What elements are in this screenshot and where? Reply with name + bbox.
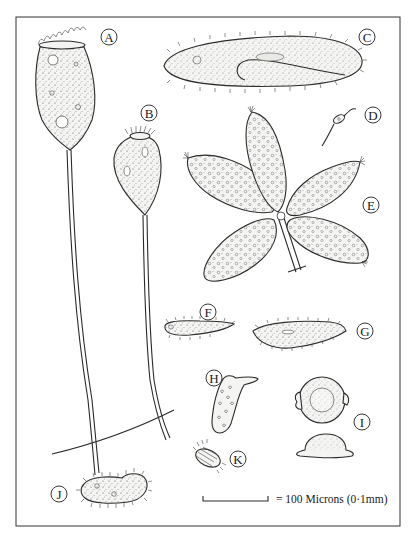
svg-text:K: K xyxy=(233,452,243,467)
svg-text:B: B xyxy=(145,106,154,121)
scale-bar: = 100 Microns (0·1mm) xyxy=(203,493,388,506)
specimen-a xyxy=(36,27,99,475)
svg-text:J: J xyxy=(56,487,61,502)
label-f: F xyxy=(200,304,216,320)
specimen-f xyxy=(165,316,235,340)
svg-text:C: C xyxy=(363,30,372,45)
specimen-e xyxy=(183,106,368,281)
label-c: C xyxy=(359,29,375,45)
specimen-d xyxy=(322,109,356,146)
label-a: A xyxy=(101,29,117,45)
label-b: B xyxy=(141,105,157,121)
label-d: D xyxy=(365,107,381,123)
label-e: E xyxy=(363,197,379,213)
svg-text:H: H xyxy=(209,371,218,386)
svg-text:A: A xyxy=(104,30,114,45)
svg-text:F: F xyxy=(204,305,211,320)
scale-bar-label: = 100 Microns (0·1mm) xyxy=(276,493,388,506)
specimen-k xyxy=(193,439,226,473)
protozoa-plate: A B C D xyxy=(0,0,412,540)
specimen-g xyxy=(253,317,346,351)
specimen-b xyxy=(114,126,170,440)
specimen-j xyxy=(76,468,152,508)
specimen-i xyxy=(295,377,353,458)
svg-text:G: G xyxy=(360,324,369,339)
svg-text:E: E xyxy=(367,198,375,213)
label-i: I xyxy=(354,414,370,430)
specimen-c xyxy=(164,31,367,93)
label-g: G xyxy=(357,323,373,339)
svg-text:D: D xyxy=(368,108,377,123)
label-k: K xyxy=(230,451,246,467)
label-j: J xyxy=(51,486,67,502)
substrate-line xyxy=(52,410,174,454)
label-h: H xyxy=(206,370,222,386)
svg-text:I: I xyxy=(360,415,364,430)
